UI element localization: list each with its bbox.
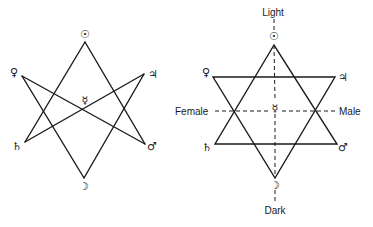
right-mercury-symbol: ☿ [272,102,279,115]
female-label: Female [175,106,209,117]
left-line-sun-mars [85,42,145,144]
male-label: Male [339,106,361,117]
axis-vertical-upper [274,45,275,100]
right-moon-symbol: ☽ [270,179,280,192]
left-planetary-hexagram: ☉ ♀ ♃ ☿ ♄ ♂ ☽ [10,28,158,193]
right-venus-symbol: ♀ [202,66,210,79]
right-mars-symbol: ♂ [338,141,348,154]
upward-triangle [215,45,337,144]
light-label: Light [262,7,284,18]
right-saturn-symbol: ♄ [202,141,212,154]
right-jupiter-symbol: ♃ [338,71,348,84]
left-line-sun-saturn [25,42,85,142]
left-mercury-symbol: ☿ [82,94,89,107]
left-mars-symbol: ♂ [147,140,157,153]
left-moon-symbol: ☽ [79,180,89,193]
left-line-jupiter-saturn [25,74,144,142]
right-sun-symbol: ☉ [269,30,279,43]
left-jupiter-symbol: ♃ [148,68,158,81]
dark-label: Dark [264,205,286,216]
downward-triangle [213,77,335,178]
left-sun-symbol: ☉ [80,28,90,41]
left-line-venus-moon [22,76,84,178]
diagram-canvas: ☉ ♀ ♃ ☿ ♄ ♂ ☽ Light Dark Female Male ☉ ♀… [0,0,373,227]
left-saturn-symbol: ♄ [12,140,22,153]
left-venus-symbol: ♀ [10,66,18,79]
right-polarity-hexagram: Light Dark Female Male ☉ ♀ ♃ ☿ ♄ ♂ ☽ [175,7,361,216]
